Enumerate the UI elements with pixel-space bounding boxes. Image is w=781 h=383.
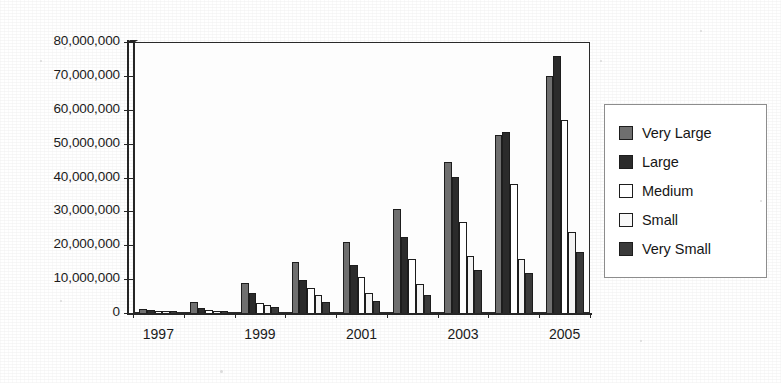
bar-small-1998 <box>213 311 221 313</box>
scan-speck <box>640 340 642 342</box>
y-axis-tick-label: 70,000,000 <box>53 67 120 82</box>
bar-small-2005 <box>568 232 576 313</box>
legend-item-label: Large <box>642 154 679 170</box>
y-axis-tick-label: 0 <box>113 304 120 319</box>
x-axis-tick-mark <box>488 313 489 318</box>
x-axis-tick-mark <box>336 313 337 318</box>
bar-large-1997 <box>147 310 155 313</box>
x-axis-tick-mark <box>184 313 185 318</box>
x-axis-tick-label: 1997 <box>128 326 188 342</box>
scan-speck <box>760 200 762 202</box>
bar-very-small-1997 <box>170 311 178 313</box>
bar-large-2001 <box>350 265 358 313</box>
bar-medium-1998 <box>205 310 213 313</box>
y-axis-tick-label: 20,000,000 <box>53 236 120 251</box>
legend-item-large[interactable]: Large <box>619 147 766 176</box>
bar-medium-1997 <box>155 311 163 313</box>
bar-medium-2000 <box>307 288 315 313</box>
legend-swatch-icon <box>619 184 633 198</box>
y-axis-tick-label: 10,000,000 <box>53 270 120 285</box>
x-axis-tick-mark <box>590 313 591 318</box>
bar-very-large-1998 <box>190 302 198 313</box>
bar-very-large-2002 <box>393 209 401 313</box>
legend-item-small[interactable]: Small <box>619 205 766 234</box>
scan-speck <box>40 60 42 62</box>
legend-swatch-icon <box>619 213 633 227</box>
bar-very-large-2000 <box>292 262 300 313</box>
scan-speck <box>220 370 223 373</box>
bar-medium-2001 <box>358 277 366 313</box>
bar-very-large-2005 <box>546 76 554 313</box>
bar-very-large-2003 <box>444 162 452 313</box>
legend-item-label: Very Small <box>642 241 711 257</box>
bar-large-2002 <box>401 237 409 313</box>
chart-figure: 80,000,00070,000,00060,000,00050,000,000… <box>0 0 781 383</box>
chart-legend: Very LargeLargeMediumSmallVery Small <box>604 104 767 278</box>
y-axis-tick-label: 80,000,000 <box>53 33 120 48</box>
x-axis-tick-mark <box>133 313 134 318</box>
legend-swatch-icon <box>619 155 633 169</box>
bar-very-small-2005 <box>576 252 584 313</box>
bar-large-2000 <box>299 280 307 313</box>
x-axis-tick-mark <box>285 313 286 318</box>
bar-large-1998 <box>198 308 206 313</box>
x-axis-tick-label: 2005 <box>535 326 595 342</box>
y-axis-tick-label: 30,000,000 <box>53 202 120 217</box>
legend-item-label: Medium <box>642 183 693 199</box>
x-axis-tick-label: 1999 <box>230 326 290 342</box>
legend-swatch-icon <box>619 126 633 140</box>
x-axis-tick-mark <box>387 313 388 318</box>
legend-item-very-small[interactable]: Very Small <box>619 234 766 263</box>
y-axis-tick-label: 40,000,000 <box>53 169 120 184</box>
bar-medium-2003 <box>459 222 467 313</box>
scan-speck <box>700 30 702 32</box>
legend-item-label: Small <box>642 212 678 228</box>
x-axis-tick-label: 2003 <box>433 326 493 342</box>
bar-small-2000 <box>315 295 323 313</box>
bar-large-2005 <box>553 56 561 313</box>
bar-very-small-1998 <box>221 311 229 313</box>
bar-very-small-1999 <box>271 307 279 313</box>
x-axis-tick-mark <box>438 313 439 318</box>
y-axis-spine-outer <box>127 40 129 315</box>
x-axis-tick-mark <box>539 313 540 318</box>
bar-large-2003 <box>452 177 460 313</box>
bar-medium-2004 <box>510 184 518 313</box>
bar-very-small-2001 <box>373 301 381 313</box>
bar-very-small-2003 <box>474 270 482 313</box>
bar-very-small-2000 <box>322 302 330 313</box>
legend-swatch-icon <box>619 242 633 256</box>
scan-speck <box>64 47 66 49</box>
bar-very-large-2004 <box>495 135 503 313</box>
bar-small-1997 <box>162 311 170 313</box>
bar-small-2002 <box>416 284 424 313</box>
y-axis-tick-label: 60,000,000 <box>53 101 120 116</box>
bar-very-large-1997 <box>139 309 147 313</box>
bar-very-small-2004 <box>525 273 533 313</box>
legend-item-medium[interactable]: Medium <box>619 176 766 205</box>
bar-large-2004 <box>502 132 510 313</box>
x-axis-tick-mark <box>235 313 236 318</box>
bar-medium-1999 <box>256 303 264 313</box>
legend-item-label: Very Large <box>642 125 712 141</box>
bar-small-2003 <box>467 256 475 313</box>
bar-large-1999 <box>249 293 257 313</box>
legend-item-very-large[interactable]: Very Large <box>619 118 766 147</box>
bar-small-2001 <box>365 293 373 313</box>
bar-very-small-2002 <box>424 295 432 313</box>
bar-small-1999 <box>264 305 272 313</box>
bar-very-large-2001 <box>343 242 351 313</box>
bar-small-2004 <box>518 259 526 313</box>
scan-speck <box>60 300 62 302</box>
bar-medium-2002 <box>408 259 416 313</box>
bar-very-large-1999 <box>241 283 249 313</box>
scan-speck <box>600 60 602 62</box>
bar-series-layer <box>133 42 590 313</box>
bar-medium-2005 <box>561 120 569 313</box>
x-axis-baseline <box>127 313 592 315</box>
x-axis-tick-label: 2001 <box>332 326 392 342</box>
y-axis-tick-label: 50,000,000 <box>53 135 120 150</box>
